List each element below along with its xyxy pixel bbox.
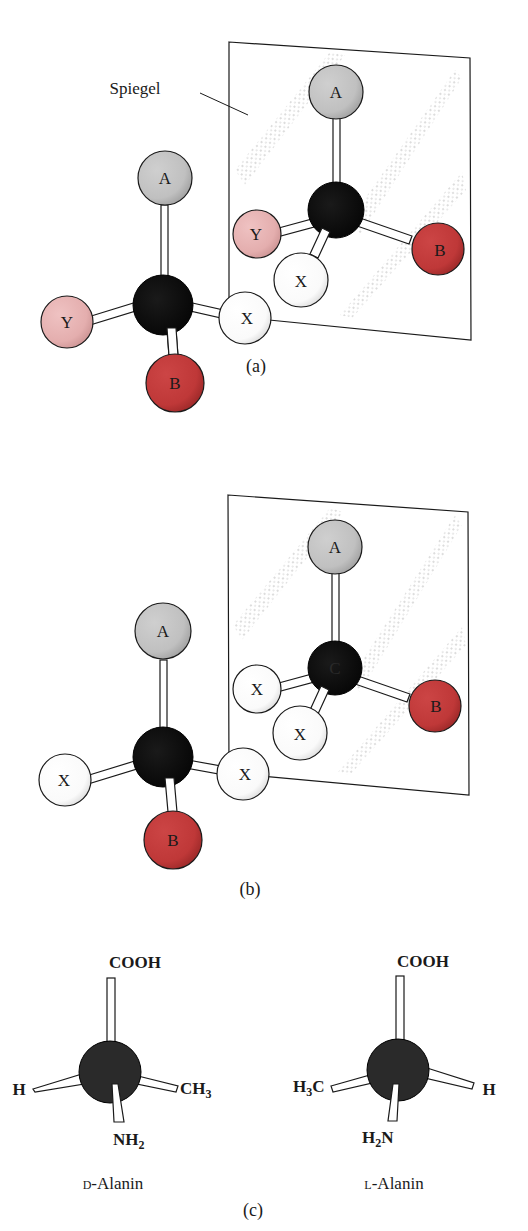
svg-text:A: A — [330, 83, 343, 102]
l-right-group: H — [482, 1080, 495, 1099]
atom-carbon — [133, 727, 193, 787]
atom-b: B — [412, 223, 464, 275]
d-alanine: COOH H CH3 NH2 D-Alanin — [12, 953, 211, 1193]
l-top-group: COOH — [397, 952, 449, 971]
d-left-group: H — [12, 1080, 25, 1099]
atom-b: B — [144, 811, 202, 869]
l-bottom-group: H2N — [362, 1128, 394, 1150]
atom-carbon — [133, 275, 193, 335]
atom-y: Y — [41, 296, 93, 348]
panel-label-b: (b) — [240, 879, 261, 900]
panel-label-c: (c) — [243, 1200, 263, 1221]
l-alanine-name: L-Alanin — [364, 1174, 424, 1193]
l-left-group: H3C — [293, 1077, 325, 1099]
svg-text:B: B — [430, 697, 441, 716]
svg-text:X: X — [241, 309, 253, 328]
l-alanine: COOH H3C H H2N L-Alanin — [293, 952, 496, 1193]
atom-a: A — [308, 520, 362, 574]
svg-text:X: X — [239, 765, 251, 784]
mirror-label: Spiegel — [110, 79, 161, 98]
svg-text:B: B — [167, 831, 178, 850]
d-right-group: CH3 — [180, 1079, 212, 1101]
chirality-figure: Spiegel A Y X — [0, 0, 528, 1231]
svg-text:X: X — [294, 725, 306, 744]
svg-text:X: X — [58, 771, 70, 790]
panel-a: Spiegel A Y X — [41, 42, 471, 412]
d-top-group: COOH — [109, 953, 161, 972]
svg-text:A: A — [159, 169, 172, 188]
svg-text:A: A — [157, 622, 170, 641]
panel-c: COOH H CH3 NH2 D-Alanin COOH H3C H — [12, 952, 495, 1221]
svg-text:B: B — [169, 374, 180, 393]
svg-text:X: X — [295, 272, 307, 291]
atom-b: B — [146, 354, 204, 412]
svg-text:A: A — [329, 538, 342, 557]
atom-carbon — [308, 182, 364, 238]
atom-a: A — [138, 151, 192, 205]
svg-text:C: C — [329, 659, 340, 678]
panel-label-a: (a) — [246, 356, 266, 377]
panel-b: A X X B A — [39, 495, 469, 900]
atom-y: Y — [233, 210, 281, 258]
d-alanine-name: D-Alanin — [83, 1174, 144, 1193]
atom-a: A — [309, 65, 363, 119]
svg-text:B: B — [434, 241, 445, 260]
atom-carbon: C — [308, 641, 362, 695]
atom-x-front: X — [273, 706, 327, 760]
svg-text:X: X — [251, 680, 263, 699]
svg-text:Y: Y — [250, 225, 262, 244]
atom-b: B — [409, 680, 461, 732]
atom-x-right: X — [217, 748, 269, 800]
svg-text:Y: Y — [61, 313, 73, 332]
atom-x: X — [274, 253, 328, 307]
atom-x-left: X — [233, 665, 281, 713]
atom-x-left: X — [39, 754, 91, 806]
d-bottom-group: NH2 — [113, 1130, 145, 1152]
atom-x: X — [219, 292, 271, 344]
atom-a: A — [135, 603, 191, 659]
